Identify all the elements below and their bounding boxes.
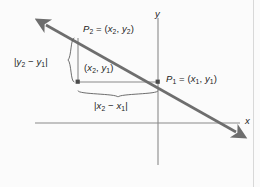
point-marker-p1: [156, 80, 160, 84]
x-axis-label: x: [245, 116, 250, 126]
label-point-p1: P1 = (x1, y1): [166, 74, 217, 84]
label-corner-point: (x2, y1): [84, 63, 114, 73]
horizontal-brace: [78, 91, 158, 97]
label-horizontal-leg: |x2 − x1|: [94, 101, 128, 111]
y-axis-label: y: [155, 9, 160, 19]
vertical-brace: [68, 38, 74, 82]
point-marker-corner: [76, 80, 80, 84]
label-point-p2: P2 = (x2, y2): [83, 24, 134, 34]
distance-formula-figure: P2 = (x2, y2) P1 = (x1, y1) (x2, y1) |y2…: [0, 0, 260, 187]
label-vertical-leg: |y2 − y1|: [14, 57, 48, 67]
